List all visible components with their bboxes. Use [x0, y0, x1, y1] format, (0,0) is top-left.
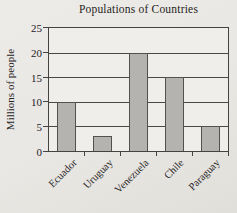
y-tick-label-20: 20	[20, 47, 42, 59]
bar-ecuador	[57, 102, 76, 151]
x-tick-1	[84, 152, 85, 156]
x-tick-2	[120, 152, 121, 156]
y-tick-label-5: 5	[20, 121, 42, 133]
x-tick-4	[192, 152, 193, 156]
chart-title: Populations of Countries	[48, 3, 229, 15]
x-tick-5	[228, 152, 229, 156]
bar-paraguay	[201, 126, 220, 151]
y-tick-25	[43, 27, 48, 28]
y-tick-20	[43, 52, 48, 53]
y-tick-0	[43, 151, 48, 152]
bar-uruguay	[93, 136, 112, 151]
plot-area	[48, 27, 229, 152]
y-tick-15	[43, 77, 48, 78]
scanned-chart-page: Populations of Countries Millions of peo…	[0, 0, 237, 213]
y-tick-label-15: 15	[20, 72, 42, 84]
y-tick-5	[43, 126, 48, 127]
bar-venezuela	[129, 53, 148, 151]
y-tick-label-10: 10	[20, 96, 42, 108]
y-tick-10	[43, 101, 48, 102]
y-axis-title: Millions of people	[4, 27, 18, 152]
y-tick-label-0: 0	[20, 146, 42, 158]
y-tick-label-25: 25	[20, 22, 42, 34]
x-tick-3	[156, 152, 157, 156]
bar-chile	[165, 77, 184, 151]
